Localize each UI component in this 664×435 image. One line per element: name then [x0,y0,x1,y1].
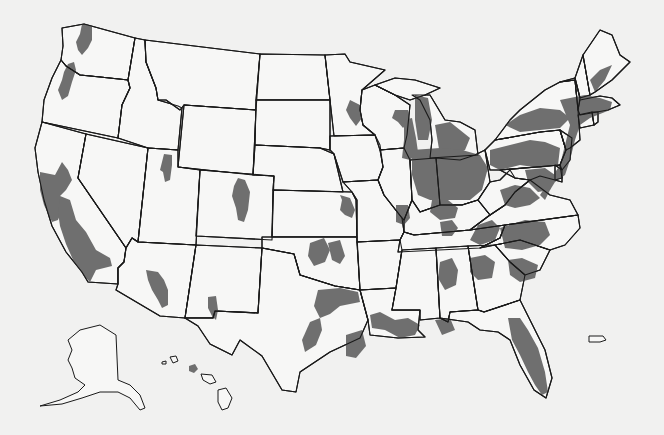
state-ar [357,240,402,290]
us-metro-map [0,0,664,435]
metro-area-indiana-ohio-belt [412,148,488,200]
state-wy [178,105,256,175]
territory-puerto-rico [589,336,606,342]
state-nm [185,245,262,318]
state-nd [256,54,330,100]
territory-niihau [162,361,166,364]
state-sd [255,100,330,150]
